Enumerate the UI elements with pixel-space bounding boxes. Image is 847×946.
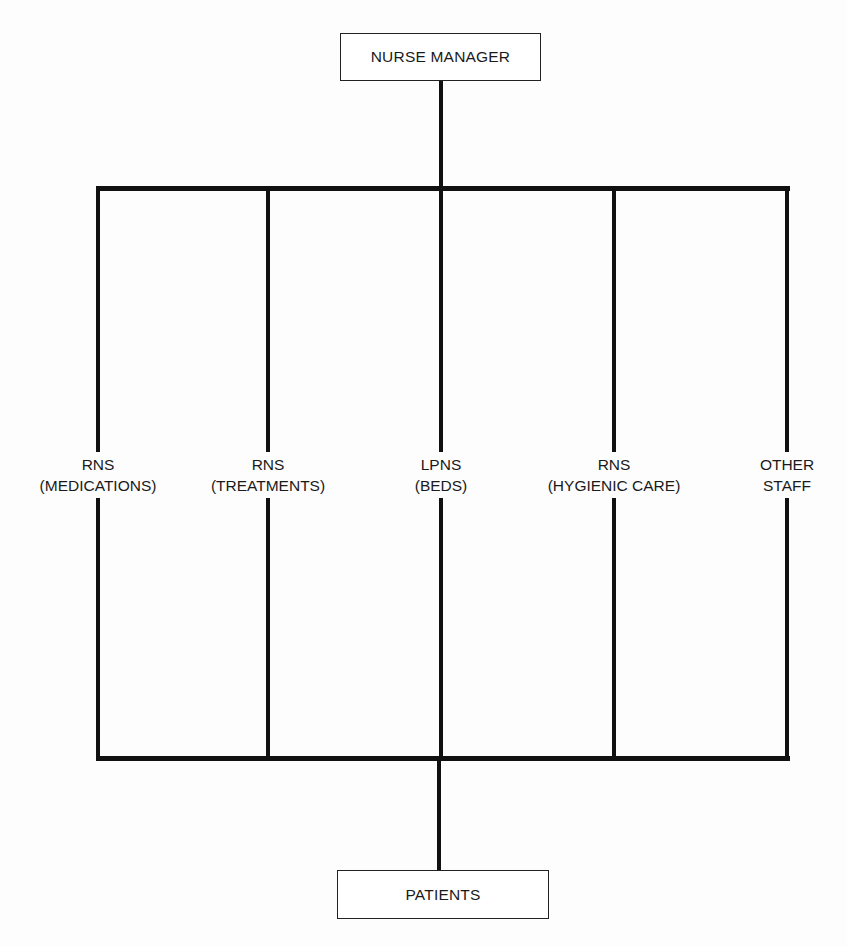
- branch-role: LPNS: [415, 454, 468, 475]
- connector-manager-to-bar: [439, 81, 443, 190]
- branch-role: RNS: [211, 454, 325, 475]
- branch-task: (MEDICATIONS): [40, 475, 157, 496]
- connector-bar-to-patients: [437, 760, 441, 871]
- branch-role: RNS: [40, 454, 157, 475]
- branch-task: (BEDS): [415, 475, 468, 496]
- branch-role: OTHER: [760, 454, 814, 475]
- branch-label-medications: RNS (MEDICATIONS): [40, 452, 157, 498]
- branch-label-beds: LPNS (BEDS): [415, 452, 468, 498]
- branch-task: (TREATMENTS): [211, 475, 325, 496]
- branch-label-treatments: RNS (TREATMENTS): [211, 452, 325, 498]
- branch-role: RNS: [548, 454, 681, 475]
- top-horizontal-bar: [96, 186, 790, 191]
- patients-node: PATIENTS: [337, 870, 549, 919]
- nurse-manager-label: NURSE MANAGER: [371, 48, 511, 66]
- patients-label: PATIENTS: [405, 886, 480, 904]
- branch-label-hygienic-care: RNS (HYGIENIC CARE): [548, 452, 681, 498]
- bottom-horizontal-bar: [96, 756, 790, 761]
- nurse-manager-node: NURSE MANAGER: [340, 33, 541, 81]
- branch-label-other-staff: OTHER STAFF: [760, 452, 814, 498]
- branch-task: STAFF: [760, 475, 814, 496]
- branch-task: (HYGIENIC CARE): [548, 475, 681, 496]
